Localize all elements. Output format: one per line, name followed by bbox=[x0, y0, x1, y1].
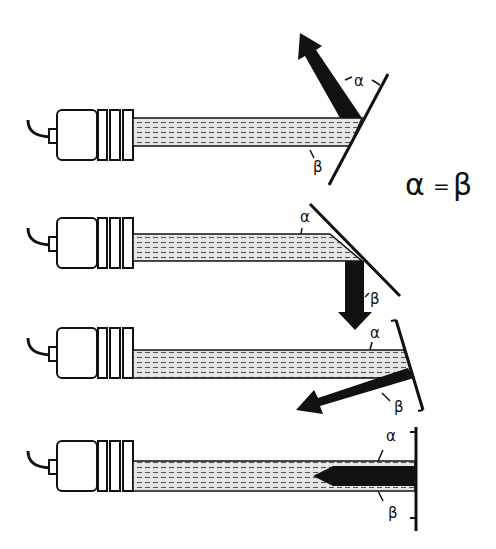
beta-symbol: β bbox=[453, 167, 472, 202]
alpha-label: α bbox=[386, 427, 396, 445]
sensor-icon bbox=[28, 328, 133, 378]
beam-row-1 bbox=[133, 118, 362, 146]
reflection-diagram: α β α = β α β α β α bbox=[0, 0, 496, 549]
alpha-label: α bbox=[300, 208, 310, 226]
equation: α = β bbox=[405, 167, 472, 202]
equals-sign: = bbox=[433, 174, 450, 198]
alpha-label: α bbox=[354, 72, 364, 90]
beam-row-3 bbox=[133, 350, 414, 378]
reflected-arrow-row-1 bbox=[298, 33, 362, 118]
beta-label: β bbox=[394, 398, 404, 416]
row-2: α β bbox=[28, 204, 400, 330]
alpha-symbol: α bbox=[405, 167, 425, 202]
row-4: α β bbox=[28, 427, 416, 531]
sensor-icon bbox=[28, 218, 133, 268]
sensor-icon bbox=[28, 441, 133, 491]
beam-row-2 bbox=[133, 234, 362, 261]
row-1: α β bbox=[28, 33, 388, 185]
reflected-arrow-row-4 bbox=[313, 466, 416, 486]
beta-label: β bbox=[313, 158, 323, 176]
sensor-icon bbox=[28, 110, 133, 160]
alpha-label: α bbox=[370, 324, 380, 342]
beta-label: β bbox=[370, 290, 380, 308]
row-3: α β bbox=[28, 320, 423, 416]
beta-label: β bbox=[388, 504, 398, 522]
